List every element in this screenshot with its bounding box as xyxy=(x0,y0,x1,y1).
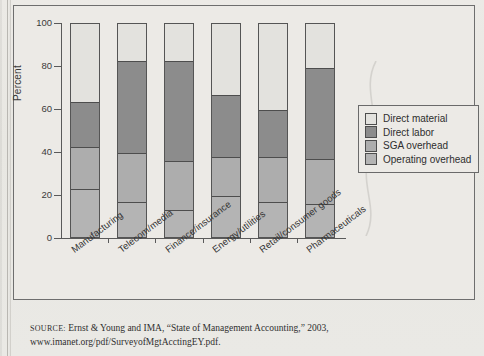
y-tick-label-0: 0 xyxy=(26,233,52,242)
legend-label: Direct material xyxy=(383,113,447,124)
bar-segment-direct-material xyxy=(118,24,146,62)
source-label: SOURCE: xyxy=(30,324,66,333)
bar-telecom-media[interactable] xyxy=(117,23,147,238)
legend-swatch-icon xyxy=(365,126,377,138)
legend-swatch-icon xyxy=(365,153,377,165)
bar-segment-sga-overhead xyxy=(118,154,146,203)
bar-segment-sga-overhead xyxy=(71,148,99,191)
plot-area xyxy=(61,23,344,238)
source-line-1: Ernst & Young and IMA, “State of Managem… xyxy=(68,323,328,333)
page-left-rule xyxy=(7,0,8,356)
legend-item-direct-labor[interactable]: Direct labor xyxy=(365,126,471,138)
x-tick-3 xyxy=(203,238,204,243)
y-axis-title: Percent xyxy=(12,65,23,101)
legend-label: Operating overhead xyxy=(383,154,471,165)
y-tick-60 xyxy=(54,109,61,110)
x-tick-2 xyxy=(155,238,156,243)
y-tick-100 xyxy=(54,23,61,24)
bar-finance-insurance[interactable] xyxy=(164,23,194,238)
bar-segment-direct-material xyxy=(71,24,99,103)
bar-segment-direct-labor xyxy=(306,69,334,161)
y-tick-20 xyxy=(54,195,61,196)
bar-segment-direct-labor xyxy=(259,111,287,158)
source-line-2: www.imanet.org/pdf/SurveyofMgtAcctingEY.… xyxy=(30,337,221,347)
bar-segment-sga-overhead xyxy=(259,158,287,203)
bar-segment-direct-material xyxy=(259,24,287,111)
bar-segment-direct-material xyxy=(306,24,334,69)
y-tick-80 xyxy=(54,66,61,67)
bar-segment-direct-labor xyxy=(71,103,99,148)
y-tick-label-100: 100 xyxy=(26,18,52,27)
page-left-rule-secondary xyxy=(10,0,11,356)
bar-segment-direct-material xyxy=(165,24,193,62)
legend-label: SGA overhead xyxy=(383,140,448,151)
bar-manufacturing[interactable] xyxy=(70,23,100,238)
y-tick-label-40: 40 xyxy=(26,147,52,156)
legend: Direct materialDirect laborSGA overheadO… xyxy=(358,105,479,173)
x-tick-4 xyxy=(250,238,251,243)
y-tick-40 xyxy=(54,152,61,153)
bar-segment-sga-overhead xyxy=(165,162,193,211)
legend-item-sga-overhead[interactable]: SGA overhead xyxy=(365,140,471,152)
legend-label: Direct labor xyxy=(383,127,434,138)
bar-segment-direct-labor xyxy=(118,62,146,154)
y-tick-label-60: 60 xyxy=(26,104,52,113)
bar-segment-direct-labor xyxy=(165,62,193,162)
legend-swatch-icon xyxy=(365,113,377,125)
y-axis-tick-labels: 020406080100 xyxy=(19,6,52,256)
y-tick-0 xyxy=(54,238,61,239)
bar-retail-consumer-goods[interactable] xyxy=(258,23,288,238)
bar-segment-sga-overhead xyxy=(212,158,240,196)
y-tick-label-80: 80 xyxy=(26,61,52,70)
figure-frame: 020406080100 Percent ManufacturingTeleco… xyxy=(13,5,475,300)
legend-item-direct-material[interactable]: Direct material xyxy=(365,113,471,125)
x-tick-1 xyxy=(108,238,109,243)
x-axis-line xyxy=(61,238,346,239)
y-tick-label-20: 20 xyxy=(26,190,52,199)
source-note: SOURCE: Ernst & Young and IMA, “State of… xyxy=(30,322,470,348)
bar-segment-direct-material xyxy=(212,24,240,96)
x-tick-5 xyxy=(297,238,298,243)
legend-swatch-icon xyxy=(365,140,377,152)
legend-item-operating-overhead[interactable]: Operating overhead xyxy=(365,153,471,165)
bar-segment-direct-labor xyxy=(212,96,240,158)
